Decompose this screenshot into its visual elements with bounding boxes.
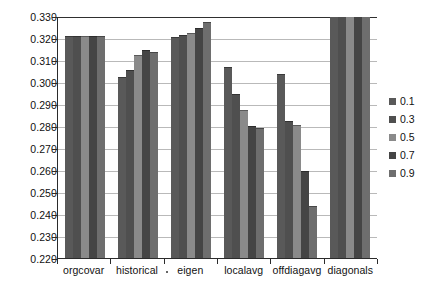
bar (195, 28, 203, 258)
bar-group (271, 17, 324, 258)
bar (65, 36, 73, 258)
y-axis-tick-label: 0.250 (5, 188, 57, 198)
bar (89, 36, 97, 258)
legend-item: 0.1 (389, 92, 441, 110)
bar-top-edge (187, 33, 195, 34)
bar (277, 74, 285, 258)
bar (362, 17, 370, 258)
bar-top-edge (309, 206, 317, 207)
bar-top-edge (277, 74, 285, 75)
bar-top-edge (301, 171, 309, 172)
bar-top-edge (293, 125, 301, 126)
y-axis-tick-label: 0.220 (5, 254, 57, 264)
bar-top-edge (89, 36, 97, 37)
legend-swatch-icon (389, 152, 396, 159)
bar-group (218, 17, 271, 258)
bar-groups (58, 17, 377, 258)
bar-top-edge (81, 36, 89, 37)
bar (256, 128, 264, 258)
legend-item: 0.3 (389, 110, 441, 128)
bar (126, 70, 134, 258)
legend-label: 0.1 (400, 96, 415, 106)
x-axis-label-eigen: eigen (164, 262, 217, 280)
legend-item: 0.7 (389, 146, 441, 164)
bar (118, 77, 126, 259)
legend-swatch-icon (389, 98, 396, 105)
x-axis-label-historical: historical (110, 262, 163, 280)
bar-top-edge (232, 94, 240, 95)
bar-top-edge (179, 35, 187, 36)
bar-group (164, 17, 217, 258)
bar-top-edge (256, 128, 264, 129)
bar (248, 126, 256, 258)
bar (293, 125, 301, 258)
bar (142, 50, 150, 258)
y-axis-tick-label: 0.310 (5, 56, 57, 66)
bar (285, 121, 293, 259)
x-axis-label-diagonals: diagonals (324, 262, 377, 280)
y-axis-tick-label: 0.290 (5, 100, 57, 110)
plot-area (57, 17, 377, 259)
x-axis-labels: orgcovarhistoricaleigenlocalavgoffdiagav… (57, 262, 377, 280)
legend: 0.10.30.50.70.9 (389, 92, 441, 182)
bar-top-edge (134, 55, 142, 56)
bar (134, 55, 142, 259)
x-axis-tick-mark (377, 259, 378, 264)
bar (354, 17, 362, 258)
bar-top-edge (203, 22, 211, 23)
bar-top-edge (65, 36, 73, 37)
x-axis-label-localavg: localavg (217, 262, 270, 280)
legend-label: 0.9 (400, 168, 415, 178)
y-axis-tick-label: 0.240 (5, 210, 57, 220)
bar-top-edge (171, 37, 179, 38)
y-axis-tick-label: 0.230 (5, 232, 57, 242)
bar-top-edge (285, 121, 293, 122)
legend-item: 0.9 (389, 164, 441, 182)
bar (81, 36, 89, 258)
bar (346, 17, 354, 258)
legend-label: 0.7 (400, 150, 415, 160)
y-axis-tick-label: 0.320 (5, 34, 57, 44)
bar-group (58, 17, 111, 258)
bar-top-edge (118, 77, 126, 78)
bar-top-edge (142, 50, 150, 51)
bar-chart: 0.3300.3200.3100.3000.2900.2800.2700.260… (0, 0, 443, 294)
bar (309, 206, 317, 258)
bar (232, 94, 240, 258)
bar-group (324, 17, 377, 258)
y-axis-tick-label: 0.300 (5, 78, 57, 88)
legend-label: 0.3 (400, 114, 415, 124)
bar (187, 33, 195, 259)
category-separator-dot (166, 271, 168, 273)
legend-item: 0.5 (389, 128, 441, 146)
bar-top-edge (73, 36, 81, 37)
y-axis-tick-label: 0.280 (5, 122, 57, 132)
bar-top-edge (126, 70, 134, 71)
bar (301, 171, 309, 258)
bar-group (111, 17, 164, 258)
y-axis-tick-label: 0.330 (5, 12, 57, 22)
y-axis-tick-label: 0.270 (5, 144, 57, 154)
bar (330, 17, 338, 258)
legend-label: 0.5 (400, 132, 415, 142)
x-axis-label-offdiagavg: offdiagavg (270, 262, 323, 280)
bar (73, 36, 81, 258)
legend-swatch-icon (389, 170, 396, 177)
bar-top-edge (224, 67, 232, 68)
bar-top-edge (195, 28, 203, 29)
bar-top-edge (240, 110, 248, 111)
legend-swatch-icon (389, 134, 396, 141)
bar (150, 52, 158, 258)
x-axis-label-orgcovar: orgcovar (57, 262, 110, 280)
bar-top-edge (150, 52, 158, 53)
bar (179, 35, 187, 258)
bar-top-edge (248, 126, 256, 127)
bar (171, 37, 179, 258)
legend-swatch-icon (389, 116, 396, 123)
bar (224, 67, 232, 258)
y-axis-tick-label: 0.260 (5, 166, 57, 176)
bar (203, 22, 211, 259)
bar (240, 110, 248, 259)
bar (97, 36, 105, 258)
bar-top-edge (97, 36, 105, 37)
